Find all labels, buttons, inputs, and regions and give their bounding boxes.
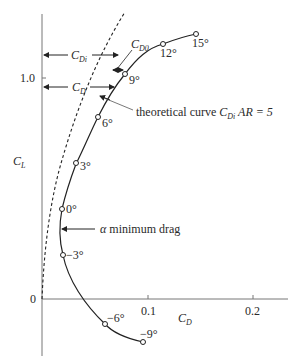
svg-text:theoretical curve CDi AR = 5: theoretical curve CDi AR = 5 [136, 105, 273, 121]
point-0 [60, 207, 65, 212]
label-0: 0° [66, 202, 77, 216]
label-neg3: −3° [66, 248, 84, 262]
point-6 [96, 115, 101, 120]
svg-text:CL: CL [13, 154, 26, 170]
label-12: 12° [160, 46, 177, 60]
point-9 [123, 72, 128, 77]
label-15: 15° [192, 36, 209, 50]
x-tick-label-01: 0.1 [141, 304, 156, 318]
label-3: 3° [80, 159, 91, 173]
cd-dimension: CD [44, 80, 114, 96]
label-neg9: −9° [140, 327, 158, 341]
x-axis-label: CD [178, 311, 192, 327]
min-drag-annotation: α minimum drag [62, 222, 180, 236]
y-tick-label-0: 0 [30, 292, 36, 306]
label-9: 9° [129, 73, 140, 87]
measured-polar-curve [60, 34, 196, 342]
svg-text:α minimum drag: α minimum drag [100, 222, 180, 236]
svg-text:CD: CD [72, 80, 86, 96]
svg-text:CDi: CDi [71, 48, 87, 64]
cdi-dimension: CDi [44, 48, 118, 64]
label-neg6: −6° [107, 311, 125, 325]
point-3 [74, 161, 79, 166]
theoretical-curve-label: theoretical curve CDi AR = 5 [100, 96, 273, 121]
svg-text:CD0: CD0 [131, 37, 149, 53]
point-neg3 [61, 253, 66, 258]
x-tick-label-02: 0.2 [245, 304, 260, 318]
label-6: 6° [102, 116, 113, 130]
drag-polar-diagram: 1.0 0 0.1 0.2 CL CD 15° 12° 9° 6° 3° 0° … [0, 0, 303, 364]
svg-text:CD: CD [178, 311, 192, 327]
y-tick-label-1: 1.0 [20, 71, 35, 85]
y-axis-label: CL [13, 154, 26, 170]
